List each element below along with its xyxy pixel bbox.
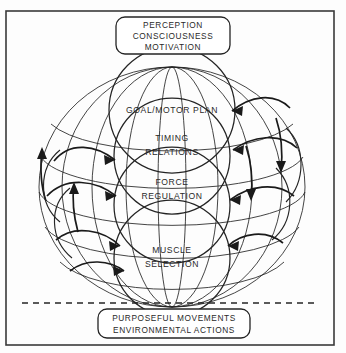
bottom-box-line-1: PURPOSEFUL MOVEMENTS (112, 313, 236, 323)
motor-control-diagram: PERCEPTION CONSCIOUSNESS MOTIVATION PURP… (0, 0, 346, 353)
label-force-regulation-1: FORCE (155, 177, 188, 187)
feedback-arrows-left (37, 147, 124, 276)
label-timing-relations-1: TIMING (155, 133, 189, 143)
top-box-line-3: MOTIVATION (145, 42, 201, 52)
top-box-line-1: PERCEPTION (143, 20, 203, 30)
bottom-box-line-2: ENVIRONMENTAL ACTIONS (113, 325, 235, 335)
label-timing-relations-2: RELATIONS (145, 147, 198, 157)
label-force-regulation-2: REGULATION (141, 191, 202, 201)
top-box-line-2: CONSCIOUSNESS (133, 31, 214, 41)
arrowhead-feedforward-down-2 (246, 189, 256, 201)
figure-canvas: PERCEPTION CONSCIOUSNESS MOTIVATION PURP… (0, 0, 346, 353)
label-muscle-selection-2: SELECTION (145, 259, 199, 269)
label-muscle-selection-1: MUSCLE (152, 245, 191, 255)
label-goal-motor-plan: GOAL/MOTOR PLAN (126, 105, 218, 115)
circle-muscle-selection (114, 200, 230, 316)
